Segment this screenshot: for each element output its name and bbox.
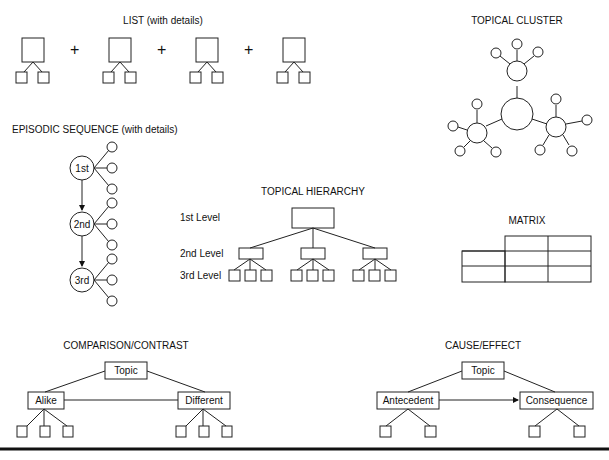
episode-node-1: 1st <box>70 161 94 175</box>
topical-hierarchy-diagram <box>229 208 396 281</box>
topical-cluster-diagram <box>448 39 592 157</box>
hierarchy-title: TOPICAL HIERARCHY <box>261 186 365 197</box>
comparison-different: Different <box>178 392 230 409</box>
episode-node-3: 3rd <box>70 273 94 287</box>
episodic-title: EPISODIC SEQUENCE (with details) <box>12 124 178 135</box>
list-title: LIST (with details) <box>123 15 203 26</box>
comparison-title: COMPARISON/CONTRAST <box>63 340 188 351</box>
plus-sign: + <box>157 41 166 59</box>
matrix-title: MATRIX <box>508 215 545 226</box>
cause-topic: Topic <box>462 362 504 379</box>
comparison-alike: Alike <box>28 392 64 409</box>
level-label-2: 2nd Level <box>180 248 223 259</box>
level-label-3: 3rd Level <box>180 270 221 281</box>
cause-antecedent: Antecedent <box>377 392 439 409</box>
plus-sign: + <box>244 41 253 59</box>
plus-sign: + <box>70 41 79 59</box>
matrix-diagram <box>462 236 591 282</box>
episode-node-2: 2nd <box>70 217 94 231</box>
cause-consequence: Consequence <box>520 392 593 409</box>
cluster-title: TOPICAL CLUSTER <box>471 15 563 26</box>
level-label-1: 1st Level <box>180 212 220 223</box>
comparison-topic: Topic <box>105 362 147 379</box>
cause-title: CAUSE/EFFECT <box>445 340 521 351</box>
